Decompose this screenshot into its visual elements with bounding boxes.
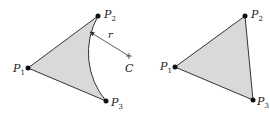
point-p1 [26, 66, 31, 71]
straight-triangle-figure: P1 P2 P3 [159, 8, 269, 110]
point-p3 [251, 98, 256, 103]
label-c: C [125, 62, 134, 75]
straight-triangle-shape [175, 16, 253, 100]
label-p3: P3 [256, 95, 269, 110]
arc-triangle-figure: P1 P2 P3 r C [12, 8, 134, 111]
label-p1: P1 [159, 60, 172, 75]
label-p2: P2 [103, 8, 116, 23]
arc-triangle-shape [28, 16, 106, 101]
point-p2 [243, 14, 248, 19]
label-p1: P1 [12, 62, 25, 77]
point-p1 [173, 65, 178, 70]
point-p3 [104, 99, 109, 104]
diagram-canvas: P1 P2 P3 r C P1 P2 P3 [0, 0, 270, 117]
label-r: r [108, 29, 114, 40]
point-p2 [96, 14, 101, 19]
label-p2: P2 [250, 8, 263, 23]
label-p3: P3 [110, 96, 123, 111]
